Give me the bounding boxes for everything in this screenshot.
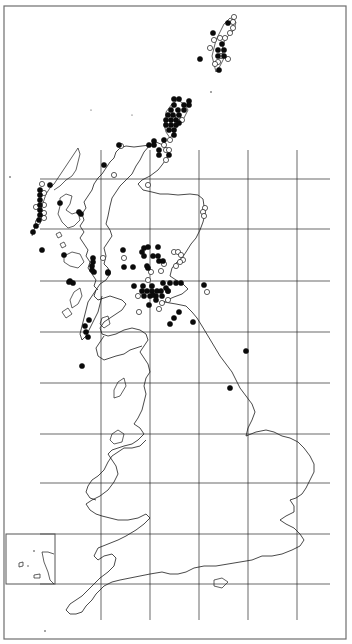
- record-dot-filled: [166, 127, 171, 132]
- record-dot-open: [159, 300, 164, 305]
- record-dot-filled: [167, 280, 172, 285]
- record-dot-filled: [181, 102, 186, 107]
- record-dot-filled: [158, 288, 163, 293]
- record-dot-filled: [168, 117, 173, 122]
- record-dot-open: [166, 147, 171, 152]
- record-dot-filled: [144, 288, 149, 293]
- anglesey: [110, 430, 124, 444]
- record-dot-open: [217, 35, 222, 40]
- record-dot-filled: [130, 264, 135, 269]
- record-dot-filled: [243, 348, 248, 353]
- record-dot-filled: [121, 264, 126, 269]
- alderney: [33, 550, 35, 552]
- record-dot-filled: [83, 329, 88, 334]
- record-dot-open: [173, 263, 178, 268]
- record-dot-filled: [150, 253, 155, 258]
- record-dot-filled: [37, 202, 42, 207]
- mull: [64, 252, 84, 268]
- record-dot-filled: [176, 96, 181, 101]
- record-dot-filled: [78, 211, 83, 216]
- record-dot-open: [39, 181, 44, 186]
- record-dot-filled: [153, 297, 158, 302]
- record-dot-open: [204, 289, 209, 294]
- record-dot-filled: [221, 47, 226, 52]
- record-dot-filled: [168, 107, 173, 112]
- record-dot-filled: [171, 132, 176, 137]
- small-isles: [56, 232, 66, 248]
- record-dot-filled: [215, 47, 220, 52]
- recent-records-layer: [30, 20, 248, 390]
- record-dot-open: [136, 309, 141, 314]
- record-dot-filled: [37, 192, 42, 197]
- record-dot-filled: [37, 212, 42, 217]
- record-dot-filled: [140, 283, 145, 288]
- record-dot-filled: [190, 319, 195, 324]
- record-dot-filled: [39, 247, 44, 252]
- record-dot-filled: [176, 120, 181, 125]
- record-dot-filled: [144, 263, 149, 268]
- record-dot-filled: [197, 56, 202, 61]
- record-dot-filled: [141, 253, 146, 258]
- record-dot-filled: [166, 152, 171, 157]
- record-dot-filled: [173, 280, 178, 285]
- record-dot-filled: [91, 269, 96, 274]
- record-dot-open: [158, 268, 163, 273]
- record-dot-open: [227, 30, 232, 35]
- record-dot-filled: [155, 244, 160, 249]
- record-dot-filled: [176, 309, 181, 314]
- distribution-map: [0, 0, 352, 644]
- record-dot-filled: [79, 363, 84, 368]
- inset-frame: [6, 534, 55, 584]
- record-dot-filled: [149, 283, 154, 288]
- record-dot-filled: [146, 142, 151, 147]
- record-dot-filled: [57, 200, 62, 205]
- record-dot-filled: [163, 117, 168, 122]
- mainland-coast: [66, 142, 314, 614]
- record-dot-open: [135, 293, 140, 298]
- scilly-speck: [44, 630, 46, 632]
- guernsey: [19, 562, 23, 567]
- record-dot-open: [163, 157, 168, 162]
- map-canvas: [0, 0, 352, 644]
- record-dot-open: [161, 142, 166, 147]
- sark: [27, 565, 28, 566]
- fair-isle-speck: [210, 91, 212, 93]
- record-dot-filled: [171, 127, 176, 132]
- cotentin-coast: [42, 552, 54, 584]
- record-dot-filled: [145, 244, 150, 249]
- record-dot-filled: [120, 247, 125, 252]
- isle-of-wight: [214, 578, 228, 588]
- record-dot-open: [212, 61, 217, 66]
- record-dot-open: [121, 255, 126, 260]
- record-dot-filled: [37, 197, 42, 202]
- record-dot-filled: [163, 122, 168, 127]
- record-dot-open: [230, 25, 235, 30]
- record-dot-filled: [210, 30, 215, 35]
- record-dot-open: [231, 14, 236, 19]
- record-dot-filled: [171, 102, 176, 107]
- record-dot-filled: [175, 107, 180, 112]
- record-dot-open: [167, 137, 172, 142]
- north-rona-speck: [131, 114, 132, 115]
- record-dot-open: [111, 172, 116, 177]
- record-dot-filled: [116, 142, 121, 147]
- record-dot-filled: [165, 112, 170, 117]
- record-dot-filled: [171, 315, 176, 320]
- record-dot-filled: [167, 321, 172, 326]
- sula-sgeir-speck: [90, 109, 91, 110]
- st-kilda-speck: [9, 176, 11, 178]
- record-dot-filled: [215, 53, 220, 58]
- record-dot-filled: [170, 112, 175, 117]
- record-dot-open: [165, 297, 170, 302]
- record-dot-filled: [160, 258, 165, 263]
- record-dot-open: [207, 45, 212, 50]
- record-dot-open: [177, 259, 182, 264]
- record-dot-filled: [86, 317, 91, 322]
- record-dot-filled: [186, 102, 191, 107]
- record-dot-filled: [85, 334, 90, 339]
- record-dot-filled: [159, 293, 164, 298]
- record-dot-open: [230, 19, 235, 24]
- record-dot-filled: [176, 112, 181, 117]
- record-dot-filled: [151, 142, 156, 147]
- record-dot-filled: [139, 288, 144, 293]
